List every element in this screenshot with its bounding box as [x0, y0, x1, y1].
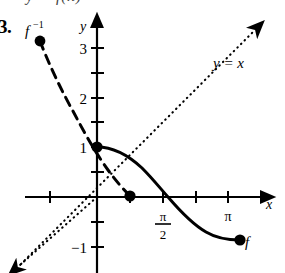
pi-over-2-numerator: π: [160, 209, 167, 224]
f-inverse-start-point: [35, 36, 46, 47]
f-inverse-exponent: −1: [33, 19, 44, 30]
pi-over-2-denominator: 2: [160, 227, 167, 242]
y-tick-label-1: 1: [80, 140, 88, 156]
f-inverse-curve: [40, 41, 130, 196]
f-curve: [97, 147, 240, 240]
f-curve-group: [91, 141, 245, 245]
x-axis-label: x: [265, 197, 273, 212]
f-curve-label: f: [245, 234, 251, 250]
identity-line-label: y = x: [211, 55, 244, 71]
f-end-point: [234, 234, 245, 245]
x-tick-label-pi: π: [224, 209, 231, 224]
graph-canvas: x y 3 2 1 −1 π 2 π f f −1 y = x: [0, 0, 285, 273]
y-tick-label-2: 2: [80, 91, 88, 107]
f-inverse-curve-group: [35, 36, 136, 202]
y-tick-label-3: 3: [80, 41, 88, 57]
f-inverse-base: f: [25, 23, 31, 39]
y-tick-label-neg1: −1: [71, 240, 87, 256]
y-axis-label: y: [78, 19, 87, 34]
x-tick-label-pi-over-2: π 2: [155, 209, 171, 242]
inverse-function-figure: y = f(x)· · · 3.: [0, 0, 285, 273]
f-inverse-end-point: [124, 190, 135, 201]
f-start-point: [91, 141, 102, 152]
